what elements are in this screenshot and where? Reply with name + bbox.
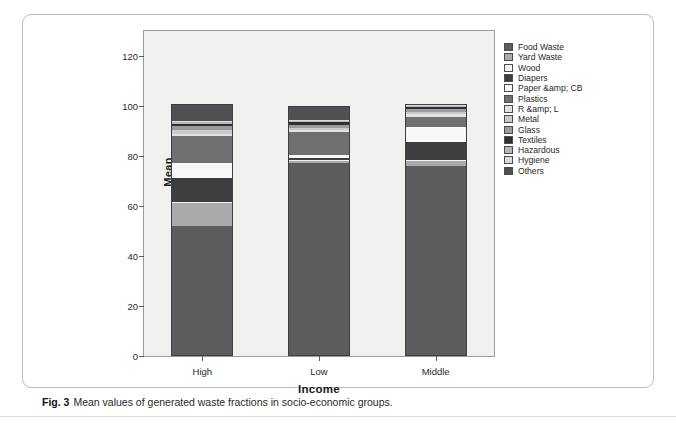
legend-swatch-icon — [504, 84, 513, 92]
y-tick-label-0: 0 — [106, 351, 138, 362]
bar-segment[interactable] — [289, 163, 349, 356]
legend-label: Hazardous — [518, 145, 560, 155]
y-tick-label-80: 80 — [106, 151, 138, 162]
legend-item[interactable]: Textiles — [504, 135, 644, 145]
bar-segment[interactable] — [406, 117, 466, 127]
legend-label: Wood — [518, 63, 540, 73]
legend-item[interactable]: Hygiene — [504, 155, 644, 165]
caption-text: Mean values of generated waste fractions… — [73, 396, 392, 408]
legend-swatch-icon — [504, 156, 513, 164]
legend-swatch-icon — [504, 105, 513, 113]
bar-segment[interactable] — [172, 136, 232, 164]
legend-label: Paper &amp; CB — [518, 83, 582, 93]
bar-segment[interactable] — [172, 178, 232, 202]
legend-item[interactable]: Paper &amp; CB — [504, 83, 644, 93]
legend-label: Plastics — [518, 94, 548, 104]
legend-label: Textiles — [518, 135, 547, 145]
legend-label: R &amp; L — [518, 104, 559, 114]
caption-figure-number: Fig. 3 — [42, 396, 69, 408]
bar-segment[interactable] — [406, 166, 466, 356]
legend-swatch-icon — [504, 136, 513, 144]
chart-plot-area: Mean 020406080100120 HighLowMiddle — [143, 30, 495, 357]
legend-swatch-icon — [504, 126, 513, 134]
x-tick-mark-low — [319, 356, 320, 361]
bar-group-high[interactable] — [171, 31, 233, 356]
legend-swatch-icon — [504, 53, 513, 61]
stacked-bar[interactable] — [171, 104, 233, 357]
bar-group-low[interactable] — [288, 31, 350, 356]
legend-item[interactable]: R &amp; L — [504, 104, 644, 114]
legend-item[interactable]: Yard Waste — [504, 52, 644, 62]
legend-swatch-icon — [504, 146, 513, 154]
x-tick-label-low: Low — [310, 366, 327, 377]
bar-segment[interactable] — [289, 107, 349, 120]
x-tick-mark-middle — [436, 356, 437, 361]
x-tick-mark-high — [202, 356, 203, 361]
bar-segment[interactable] — [406, 142, 466, 160]
bar-segment[interactable] — [172, 105, 232, 121]
legend-item[interactable]: Plastics — [504, 93, 644, 103]
chart-legend: Food WasteYard WasteWoodDiapersPaper &am… — [504, 42, 644, 176]
legend-label: Yard Waste — [518, 52, 562, 62]
legend-label: Hygiene — [518, 155, 550, 165]
legend-label: Food Waste — [518, 42, 564, 52]
y-tick-label-100: 100 — [106, 101, 138, 112]
legend-label: Glass — [518, 125, 540, 135]
legend-swatch-icon — [504, 115, 513, 123]
x-tick-label-middle: Middle — [422, 366, 450, 377]
legend-swatch-icon — [504, 43, 513, 51]
y-tick-mark-0 — [139, 356, 144, 357]
legend-swatch-icon — [504, 74, 513, 82]
legend-label: Others — [518, 166, 544, 176]
x-axis-title: Income — [143, 383, 495, 395]
bar-group-middle[interactable] — [405, 31, 467, 356]
legend-swatch-icon — [504, 167, 513, 175]
figure-frame: Mean 020406080100120 HighLowMiddle Incom… — [22, 14, 654, 388]
y-tick-label-40: 40 — [106, 251, 138, 262]
y-tick-label-60: 60 — [106, 201, 138, 212]
bars-region: HighLowMiddle — [144, 31, 494, 356]
legend-label: Metal — [518, 114, 539, 124]
legend-item[interactable]: Metal — [504, 114, 644, 124]
figure-caption: Fig. 3Mean values of generated waste fra… — [42, 396, 642, 408]
legend-label: Diapers — [518, 73, 548, 83]
legend-item[interactable]: Glass — [504, 124, 644, 134]
legend-swatch-icon — [504, 95, 513, 103]
legend-swatch-icon — [504, 64, 513, 72]
legend-item[interactable]: Diapers — [504, 73, 644, 83]
stacked-bar[interactable] — [405, 104, 467, 357]
caption-divider — [0, 416, 676, 417]
legend-item[interactable]: Wood — [504, 63, 644, 73]
legend-item[interactable]: Others — [504, 166, 644, 176]
x-tick-label-high: High — [193, 366, 213, 377]
bar-segment[interactable] — [172, 203, 232, 226]
legend-item[interactable]: Food Waste — [504, 42, 644, 52]
bar-segment[interactable] — [289, 132, 349, 156]
y-tick-label-20: 20 — [106, 301, 138, 312]
stacked-bar[interactable] — [288, 106, 350, 356]
y-tick-label-120: 120 — [106, 51, 138, 62]
legend-item[interactable]: Hazardous — [504, 145, 644, 155]
bar-segment[interactable] — [172, 226, 232, 356]
bar-segment[interactable] — [172, 163, 232, 178]
bar-segment[interactable] — [406, 127, 466, 142]
